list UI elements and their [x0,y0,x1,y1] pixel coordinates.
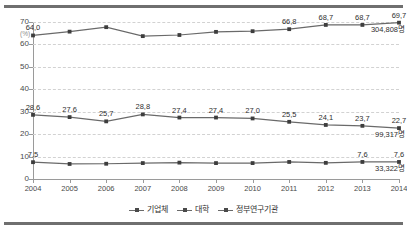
series-marker [68,115,72,119]
data-point-label: 64,0 [26,24,41,32]
data-point-label: 69,7 [392,11,407,19]
series-marker [68,162,72,166]
x-axis-tick-mark [216,179,217,183]
x-axis-tick-label: 2006 [98,185,115,193]
x-axis-tick-label: 2014 [391,185,407,193]
series-marker [178,33,182,37]
y-axis-unit-label: (%) [20,31,30,38]
series-marker [251,29,255,33]
legend-item[interactable]: 기업체 [129,206,168,214]
x-axis-tick-mark [253,179,254,183]
series-lines [33,22,399,179]
series-marker [361,160,365,164]
series-marker [287,160,291,164]
top-divider [4,5,403,8]
y-axis-tick-label: 40 [20,85,29,93]
series-marker [251,161,255,165]
series-marker [361,23,365,27]
data-point-label: 7,6 [394,150,404,158]
data-point-label: 28,8 [135,103,150,111]
series-marker [214,161,218,165]
chart-root: (%) 010203040506070 64,066,868,768,769,7… [0,0,407,228]
series-marker [178,161,182,165]
data-point-label: 27,4 [209,106,224,114]
series-marker [104,162,108,166]
x-axis-tick-label: 2011 [281,185,297,193]
legend-marker-icon [218,207,233,214]
series-marker [214,30,218,34]
x-axis-tick-mark [33,179,34,183]
series-marker [287,120,291,124]
bottom-divider [4,222,403,225]
x-axis-tick-mark [399,179,400,183]
legend-item[interactable]: 대학 [177,206,209,214]
series-marker [31,34,35,38]
series-marker [141,34,145,38]
legend-marker-icon [177,207,192,214]
x-axis-tick-mark [289,179,290,183]
data-point-label: 68,7 [355,13,370,21]
y-axis-tick-label: 20 [20,130,29,138]
data-point-label: 7,5 [28,151,38,159]
y-axis-tick-label: 60 [20,40,29,48]
legend-label: 기업체 [147,206,168,214]
series-marker [324,161,328,165]
x-axis-tick-mark [143,179,144,183]
series-marker [31,113,35,117]
data-point-label: 28,6 [26,103,41,111]
x-axis-tick-label: 2007 [134,185,151,193]
series-marker [31,160,35,164]
data-point-label: 25,7 [99,110,114,118]
x-axis-tick-label: 2005 [61,185,78,193]
data-point-label: 27,4 [172,106,187,114]
x-axis-tick-label: 2004 [25,185,42,193]
x-axis-tick-mark [70,179,71,183]
x-axis-tick-mark [326,179,327,183]
series-marker [104,25,108,29]
legend-label: 대학 [195,206,209,214]
series-marker [104,119,108,123]
x-axis-tick-mark [106,179,107,183]
data-point-label: 7,6 [357,150,367,158]
series-marker [141,113,145,117]
series-marker [214,116,218,120]
legend-item[interactable]: 정부연구기관 [218,206,278,214]
series-end-value-label: 33,322명 [375,165,405,173]
legend-marker-icon [129,207,144,214]
series-marker [361,124,365,128]
chart-legend: 기업체대학정부연구기관 [0,203,407,217]
series-end-value-label: 304,808명 [371,26,405,34]
legend-label: 정부연구기관 [236,206,278,214]
series-marker [251,117,255,121]
data-point-label: 22,7 [392,117,407,125]
series-marker [287,27,291,31]
series-marker [324,123,328,127]
x-axis-tick-label: 2008 [171,185,188,193]
data-point-label: 27,6 [62,106,77,114]
data-point-label: 25,5 [282,110,297,118]
x-axis-tick-label: 2012 [317,185,334,193]
x-axis-tick-label: 2009 [208,185,225,193]
series-marker [178,116,182,120]
series-marker [141,161,145,165]
series-marker [324,23,328,27]
series-line [33,23,399,36]
series-marker [68,30,72,34]
data-point-label: 24,1 [318,113,333,121]
data-point-label: 23,7 [355,114,370,122]
x-axis-tick-mark [179,179,180,183]
x-axis-tick-label: 2013 [354,185,371,193]
y-axis-tick-label: 50 [20,63,29,71]
series-end-value-label: 99,317명 [375,131,405,139]
data-point-label: 66,8 [282,18,297,26]
data-point-label: 68,7 [318,13,333,21]
x-axis-tick-label: 2010 [244,185,261,193]
data-point-label: 27,0 [245,107,260,115]
x-axis-tick-mark [362,179,363,183]
